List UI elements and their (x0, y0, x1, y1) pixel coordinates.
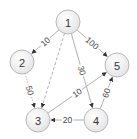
node-label: 5 (114, 60, 120, 72)
edge-weight-label: 10 (38, 34, 54, 49)
svg-text:10: 10 (39, 35, 53, 49)
edge-weight-label: 50 (23, 83, 36, 97)
edge-weight-label: 30 (75, 63, 88, 77)
node-label: 4 (93, 115, 99, 127)
node-1: 1 (56, 10, 80, 34)
nodes-layer: 12534 (10, 10, 129, 132)
edge-weight-label: 10 (69, 85, 85, 100)
edge-weight-label: 20 (62, 115, 74, 125)
node-label: 2 (19, 57, 25, 69)
node-label: 1 (65, 17, 71, 29)
edge-weight-label: 60 (100, 86, 114, 101)
node-4: 4 (84, 108, 108, 132)
svg-text:20: 20 (63, 115, 73, 125)
svg-text:10: 10 (70, 86, 84, 100)
node-2: 2 (10, 50, 34, 74)
node-5: 5 (105, 53, 129, 77)
edge-weight-label: 100 (82, 34, 101, 53)
graph-diagram: 101003050102060 12534 (0, 0, 137, 139)
node-label: 3 (35, 115, 41, 127)
node-3: 3 (26, 108, 50, 132)
